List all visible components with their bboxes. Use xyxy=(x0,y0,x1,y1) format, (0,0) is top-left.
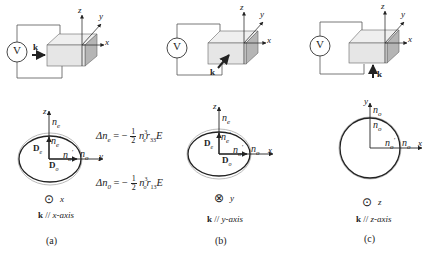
ellipse-axis-x: x xyxy=(268,145,272,155)
view-axis-label: z xyxy=(378,197,382,207)
k-direction-caption: k // x-axis xyxy=(38,210,74,220)
wave-vector-label: k xyxy=(33,42,38,52)
crystal-axis-z: z xyxy=(78,5,82,15)
wave-vector-label: k xyxy=(210,67,215,77)
view-axis-label: y xyxy=(230,193,234,203)
label-ne-prime: ne′ xyxy=(51,134,61,149)
ellipse-axis-z: z xyxy=(43,106,47,116)
label-ne: ne xyxy=(52,116,60,130)
crystal-axis-y: y xyxy=(99,11,103,21)
view-axis-label: x xyxy=(60,194,64,204)
voltmeter-label: V xyxy=(173,40,181,52)
ellipse-axis-z: z xyxy=(213,101,217,111)
label-no: no xyxy=(251,143,260,157)
crystal-axis-z: z xyxy=(240,2,244,12)
label-no-top: no xyxy=(373,104,382,118)
equation-delta-ne: Δne = − 12 n3er33E xyxy=(96,128,162,145)
crystal-axis-x: x xyxy=(105,37,109,47)
label-no-prime-right: no′ xyxy=(385,136,395,151)
voltmeter-label: V xyxy=(13,44,21,56)
panel-c-crystal-setup xyxy=(310,11,407,78)
ellipse-axis-y: y xyxy=(99,151,103,161)
crystal-axis-x: x xyxy=(267,35,271,45)
panel-b-crystal-setup xyxy=(167,12,266,75)
crystal-axis-y: y xyxy=(401,9,405,19)
label-no-prime: no′ xyxy=(233,143,243,158)
label-no: no xyxy=(80,148,89,162)
panel-caption-a: (a) xyxy=(46,235,57,246)
label-ne: ne xyxy=(222,112,230,126)
crystal-axis-z: z xyxy=(381,1,385,11)
circle-axis-x: x xyxy=(418,138,422,148)
out-of-page-icon: ⊙ xyxy=(362,195,372,210)
crystal-axis-y: y xyxy=(260,9,264,19)
crystal-axis-x: x xyxy=(408,34,412,44)
panel-caption-b: (b) xyxy=(215,235,227,246)
label-de: De xyxy=(33,143,42,155)
label-no-right: no xyxy=(402,137,411,151)
into-page-icon: ⊗ xyxy=(214,191,224,206)
label-ne-prime: ne′ xyxy=(221,130,231,145)
wave-vector-label: k xyxy=(377,69,382,79)
panel-caption-c: (c) xyxy=(364,233,375,244)
label-do: Do xyxy=(222,155,232,167)
label-no-prime-top: no′ xyxy=(373,118,383,133)
out-of-page-icon: ⊙ xyxy=(44,192,54,207)
panel-a-crystal-setup xyxy=(7,15,104,78)
label-no-prime: no′ xyxy=(63,148,73,163)
label-de: De xyxy=(204,138,213,150)
k-direction-caption: k // z-axis xyxy=(356,214,392,224)
equation-delta-no: Δn0 = − 12 n3or13E xyxy=(96,175,163,192)
circle-axis-y: y xyxy=(364,96,368,106)
k-direction-caption: k // y-axis xyxy=(207,214,243,224)
voltmeter-label: V xyxy=(316,38,324,50)
label-do: Do xyxy=(49,160,59,172)
